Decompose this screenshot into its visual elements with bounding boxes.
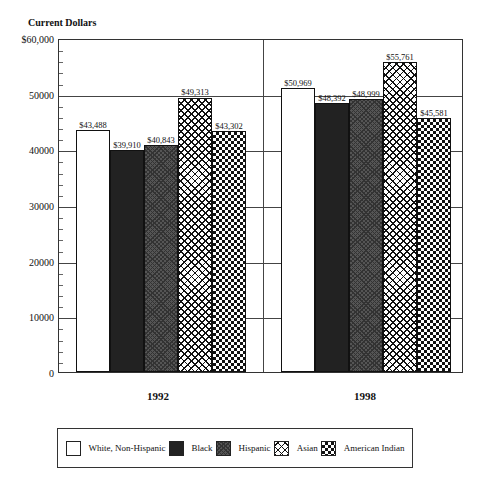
minor-tick (59, 162, 63, 163)
legend-label: American Indian (344, 443, 405, 453)
bar-value-label: $50,969 (273, 78, 323, 88)
legend-item-hisp: Hispanic (216, 441, 271, 456)
bar-hisp-1992 (144, 145, 178, 372)
group-divider (263, 40, 264, 372)
y-tick-label: 0 (0, 368, 54, 379)
legend-swatch (169, 441, 184, 456)
bar-value-label: $49,313 (170, 87, 220, 97)
bar-black-1992 (110, 150, 144, 372)
minor-tick (59, 73, 63, 74)
y-tick-label: $60,000 (0, 34, 54, 45)
bar-value-label: $43,302 (204, 121, 254, 131)
minor-tick (59, 140, 63, 141)
x-tick-label: 1998 (354, 390, 376, 402)
legend-label: Black (192, 443, 213, 453)
minor-tick (59, 363, 63, 364)
minor-tick (59, 129, 63, 130)
minor-tick (59, 174, 63, 175)
legend-item-amind: American Indian (321, 441, 405, 456)
legend: White, Non-HispanicBlackHispanicAsianAme… (57, 428, 413, 468)
minor-tick (59, 85, 63, 86)
y-tick-label: 20000 (0, 256, 54, 267)
minor-tick (59, 229, 63, 230)
legend-swatch (321, 441, 336, 456)
bar-hisp-1998 (349, 99, 383, 372)
minor-tick (59, 51, 63, 52)
minor-tick (59, 196, 63, 197)
legend-swatch (66, 441, 81, 456)
minor-tick (59, 252, 63, 253)
y-axis-title: Current Dollars (28, 17, 96, 28)
y-tick-label: 40000 (0, 145, 54, 156)
plot-area: $43,488$39,910$40,843$49,313$43,302$50,9… (58, 39, 463, 373)
minor-tick (59, 107, 63, 108)
x-tick-label: 1992 (147, 390, 169, 402)
minor-tick (59, 118, 63, 119)
bar-amind-1992 (212, 131, 246, 372)
bar-value-label: $55,761 (375, 52, 425, 62)
y-tick-label: 10000 (0, 312, 54, 323)
legend-label: Hispanic (239, 443, 271, 453)
minor-tick (59, 352, 63, 353)
minor-tick (59, 329, 63, 330)
minor-tick (59, 341, 63, 342)
bar-value-label: $45,581 (409, 108, 459, 118)
legend-label: Asian (297, 443, 318, 453)
bar-white-1992 (76, 130, 110, 372)
minor-tick (59, 296, 63, 297)
bar-value-label: $43,488 (68, 120, 118, 130)
legend-item-white: White, Non-Hispanic (66, 441, 166, 456)
minor-tick (59, 274, 63, 275)
minor-tick (59, 185, 63, 186)
minor-tick (59, 285, 63, 286)
y-tick-label: 50000 (0, 89, 54, 100)
bar-asian-1992 (178, 98, 212, 373)
legend-label: White, Non-Hispanic (89, 443, 166, 453)
legend-item-asian: Asian (274, 441, 318, 456)
bar-amind-1998 (417, 118, 451, 372)
y-tick-label: 30000 (0, 201, 54, 212)
legend-swatch (216, 441, 231, 456)
legend-item-black: Black (169, 441, 213, 456)
bar-black-1998 (315, 103, 349, 372)
minor-tick (59, 218, 63, 219)
minor-tick (59, 307, 63, 308)
bar-white-1998 (281, 88, 315, 372)
minor-tick (59, 240, 63, 241)
legend-swatch (274, 441, 289, 456)
minor-tick (59, 62, 63, 63)
